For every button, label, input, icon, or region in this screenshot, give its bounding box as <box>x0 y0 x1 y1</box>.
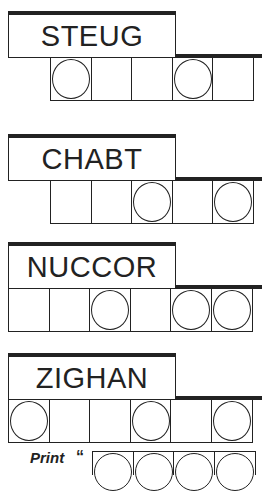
letter-cell[interactable] <box>130 288 172 332</box>
letter-cell-circled[interactable] <box>211 288 253 332</box>
letter-cell[interactable] <box>49 399 91 443</box>
letter-cell-circled[interactable] <box>212 180 254 224</box>
letter-cell-circled[interactable] <box>89 288 131 332</box>
letter-cell-circled[interactable] <box>172 57 214 101</box>
final-letter-cell[interactable] <box>133 451 175 475</box>
letter-cell-circled[interactable] <box>130 399 172 443</box>
open-quote: “ <box>76 448 84 466</box>
scrambled-word-box: NUCCOR <box>8 242 176 289</box>
final-letter-cell[interactable] <box>214 451 256 475</box>
scrambled-word: ZIGHAN <box>36 362 149 395</box>
letter-cell-circled[interactable] <box>50 57 92 101</box>
scrambled-word-box: CHABT <box>8 134 176 181</box>
letter-cell[interactable] <box>91 57 133 101</box>
letter-cell-circled[interactable] <box>131 180 173 224</box>
answer-cells <box>50 57 254 101</box>
letter-cell-circled[interactable] <box>211 399 253 443</box>
answer-cells <box>8 399 253 443</box>
answer-cells <box>8 288 253 332</box>
letter-cell[interactable] <box>89 399 131 443</box>
letter-cell[interactable] <box>131 57 173 101</box>
letter-cell[interactable] <box>91 180 133 224</box>
scrambled-word-box: ZIGHAN <box>8 353 176 400</box>
letter-cell-circled[interactable] <box>170 288 212 332</box>
letter-cell[interactable] <box>50 180 92 224</box>
letter-cell[interactable] <box>170 399 212 443</box>
letter-cell[interactable] <box>8 288 50 332</box>
final-answer-cells <box>92 451 256 475</box>
print-label: Print <box>30 449 64 466</box>
scrambled-word: NUCCOR <box>27 251 157 284</box>
final-letter-cell[interactable] <box>92 451 134 475</box>
scrambled-word: STEUG <box>41 20 143 53</box>
final-answer-row: Print “ <box>0 449 272 466</box>
letter-cell[interactable] <box>172 180 214 224</box>
final-letter-cell[interactable] <box>173 451 215 475</box>
answer-cells <box>50 180 254 224</box>
letter-cell[interactable] <box>49 288 91 332</box>
scrambled-word: CHABT <box>42 143 143 176</box>
scrambled-word-box: STEUG <box>8 11 176 58</box>
letter-cell-circled[interactable] <box>8 399 50 443</box>
letter-cell[interactable] <box>212 57 254 101</box>
